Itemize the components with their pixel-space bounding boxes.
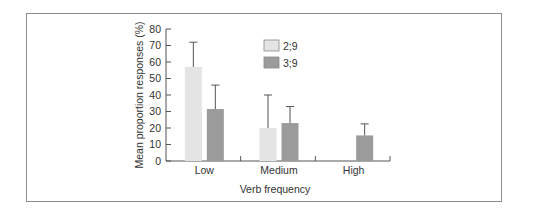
bar <box>260 128 277 161</box>
y-tick-label: 0 <box>155 155 161 167</box>
y-axis-title: Mean proportion responses (%) <box>133 21 145 168</box>
bar <box>282 123 299 161</box>
y-tick-label: 30 <box>149 105 161 117</box>
x-axis-title: Verb frequency <box>240 183 311 195</box>
y-tick-label: 20 <box>149 122 161 134</box>
y-tick-label: 40 <box>149 89 161 101</box>
legend-label: 3;9 <box>283 57 298 69</box>
legend-swatch <box>264 57 279 68</box>
legend-swatch <box>264 40 279 51</box>
y-axis: 01020304050607080 <box>149 23 171 167</box>
y-tick-label: 10 <box>149 138 161 150</box>
x-tick-label: High <box>343 164 365 176</box>
y-tick-label: 70 <box>149 39 161 51</box>
x-tick-label: Medium <box>260 164 298 176</box>
legend: 2;93;9 <box>264 40 298 69</box>
y-tick-label: 80 <box>149 23 161 35</box>
legend-label: 2;9 <box>283 40 298 52</box>
y-tick-label: 60 <box>149 56 161 68</box>
bar <box>356 135 373 161</box>
bar <box>207 109 224 161</box>
bar <box>185 67 202 161</box>
bar-chart: 01020304050607080 LowMediumHigh 2;93;9 M… <box>0 0 560 216</box>
y-tick-label: 50 <box>149 72 161 84</box>
x-tick-label: Low <box>195 164 215 176</box>
